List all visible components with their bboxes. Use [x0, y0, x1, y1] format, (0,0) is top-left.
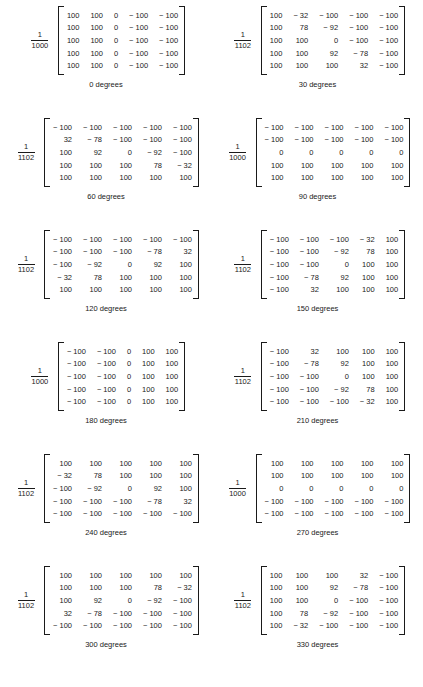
matrix-value: 100 — [268, 34, 283, 47]
matrix-value: 0 — [263, 146, 284, 159]
matrix-table: 10010010032− 10010010092− 78− 1001001000… — [268, 569, 398, 632]
matrix-value: − 100 — [72, 508, 102, 521]
matrix-value: − 100 — [368, 60, 398, 73]
matrix-row: − 100− 100− 100− 100− 100 — [51, 233, 192, 246]
fraction-denominator: 1102 — [18, 490, 34, 498]
fraction-numerator: 1 — [241, 367, 245, 375]
fraction-denominator: 1000 — [32, 42, 49, 50]
matrix-value: − 100 — [263, 134, 284, 147]
matrix-table: − 100− 100− 100− 32100− 100− 100− 927810… — [268, 233, 398, 296]
matrix-value: 100 — [72, 457, 102, 470]
matrix-value: 0 — [103, 47, 118, 60]
matrix-brackets: − 100− 100− 100− 100− 100− 100− 100− 100… — [44, 230, 199, 299]
matrix-value: 100 — [268, 569, 283, 582]
matrix-row: 1001000− 100− 100 — [65, 22, 178, 35]
matrix-value: − 32 — [51, 470, 72, 483]
matrix-value: 100 — [65, 22, 80, 35]
matrix-value: − 100 — [132, 508, 162, 521]
matrix-row: − 100− 1000100100 — [268, 258, 398, 271]
matrix-value: 100 — [308, 569, 338, 582]
matrix-value: 100 — [51, 159, 72, 172]
matrix-value: 100 — [131, 345, 155, 358]
matrix-angle-caption: 240 degrees — [85, 528, 127, 537]
matrix-block: 110001001000− 100− 1001001000− 100− 1001… — [0, 0, 212, 112]
matrix-row: − 100− 100− 100− 100− 100 — [263, 134, 404, 147]
matrix-value: − 100 — [268, 233, 289, 246]
matrix-row: 10010092− 78− 100 — [268, 47, 398, 60]
matrix-expression: 11102− 100− 100− 100− 32100− 100− 100− 9… — [230, 230, 405, 299]
matrix-angle-caption: 90 degrees — [299, 192, 337, 201]
matrix-value: 100 — [343, 159, 373, 172]
matrix-row: 10010010078− 32 — [51, 582, 192, 595]
matrix-value: − 100 — [373, 495, 403, 508]
fraction-numerator: 1 — [38, 31, 42, 39]
matrix-value: 100 — [268, 9, 283, 22]
matrix-value: 100 — [51, 569, 72, 582]
matrix-value: 100 — [349, 258, 375, 271]
matrix-expression: 11000− 100− 1000100100− 100− 1000100100−… — [27, 342, 185, 411]
matrix-row: − 100− 92092100 — [51, 258, 192, 271]
matrix-value: 32 — [338, 569, 368, 582]
matrix-value: − 100 — [86, 370, 116, 383]
matrix-value: 0 — [103, 60, 118, 73]
matrix-value: 100 — [349, 271, 375, 284]
matrix-table: − 100− 1000100100− 100− 1000100100− 100−… — [65, 345, 178, 408]
matrix-row: − 10032100100100 — [268, 284, 398, 297]
matrix-value: − 100 — [65, 396, 86, 409]
matrix-value: − 100 — [162, 607, 192, 620]
matrix-value: − 100 — [72, 121, 102, 134]
fraction-denominator: 1000 — [32, 378, 49, 386]
matrix-value: − 100 — [102, 246, 132, 259]
matrix-value: − 100 — [132, 607, 162, 620]
matrix-value: 100 — [51, 146, 72, 159]
matrix-row: 32− 78− 100− 100− 100 — [51, 134, 192, 147]
matrix-value: 100 — [314, 172, 344, 185]
matrix-value: − 92 — [132, 594, 162, 607]
matrix-value: − 92 — [308, 22, 338, 35]
fraction-numerator: 1 — [235, 143, 239, 151]
matrix-value: − 100 — [72, 246, 102, 259]
matrix-value: 100 — [375, 284, 399, 297]
matrix-value: − 100 — [102, 495, 132, 508]
scalar-fraction: 11102 — [13, 255, 39, 274]
matrix-value: 100 — [132, 271, 162, 284]
matrix-value: 100 — [132, 470, 162, 483]
matrix-value: − 78 — [338, 582, 368, 595]
matrix-value: 78 — [132, 582, 162, 595]
matrix-value: − 100 — [268, 246, 289, 259]
matrix-value: − 100 — [162, 508, 192, 521]
matrix-value: 100 — [349, 370, 375, 383]
matrix-value: 100 — [284, 457, 314, 470]
matrix-value: 100 — [79, 60, 103, 73]
matrix-angle-caption: 300 degrees — [85, 640, 127, 649]
fraction-numerator: 1 — [235, 479, 239, 487]
matrix-row: 00000 — [263, 482, 404, 495]
matrix-value: − 100 — [314, 121, 344, 134]
matrix-value: 100 — [72, 172, 102, 185]
matrix-value: − 100 — [319, 396, 349, 409]
matrix-value: 100 — [375, 271, 399, 284]
matrix-row: 10078− 92− 100− 100 — [268, 607, 398, 620]
matrix-value: 0 — [102, 258, 132, 271]
matrix-value: − 100 — [368, 9, 398, 22]
matrix-value: − 100 — [118, 47, 148, 60]
matrix-value: 100 — [51, 172, 72, 185]
fraction-numerator: 1 — [241, 255, 245, 263]
matrix-table: − 100− 100− 100− 100− 100− 100− 100− 100… — [263, 121, 404, 184]
matrix-block: 11102− 100− 100− 100− 32100− 100− 100− 9… — [212, 224, 423, 336]
matrix-row: − 100− 7892100100 — [268, 358, 398, 371]
matrix-row: − 100− 100− 9278100 — [268, 246, 398, 259]
matrix-brackets: 10010010010010010010010010010000000− 100… — [256, 454, 411, 523]
matrix-value: − 100 — [102, 134, 132, 147]
matrix-row: − 100− 100− 100− 7832 — [51, 495, 192, 508]
matrix-value: − 100 — [51, 508, 72, 521]
scalar-fraction: 11000 — [27, 367, 53, 386]
matrix-value: 100 — [282, 47, 308, 60]
fraction-numerator: 1 — [24, 591, 28, 599]
matrix-value: 0 — [116, 383, 131, 396]
matrix-value: − 78 — [338, 47, 368, 60]
matrix-value: − 100 — [263, 495, 284, 508]
matrix-value: − 100 — [148, 22, 178, 35]
matrix-value: − 100 — [373, 508, 403, 521]
matrix-value: 92 — [132, 258, 162, 271]
